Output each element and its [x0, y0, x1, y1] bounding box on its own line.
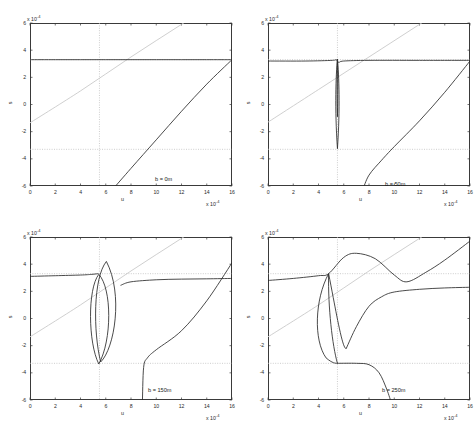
x-tick-label: 10 — [146, 403, 166, 409]
x-tick-label: 16 — [460, 189, 475, 195]
x-axis-label-p2: u — [121, 410, 124, 416]
figure-canvas: x 10-4 s u x 10-4 b = 0m 024681012141664… — [0, 0, 475, 428]
x-tick-label: 2 — [45, 403, 65, 409]
y-tick-label: -6 — [246, 397, 264, 403]
y-tick-label: 4 — [246, 261, 264, 267]
y-tick-label: 0 — [8, 315, 26, 321]
x-tick-label: 14 — [435, 189, 455, 195]
y-tick-label: -4 — [8, 155, 26, 161]
y-tick-label: 0 — [246, 315, 264, 321]
x-tick-label: 10 — [384, 189, 404, 195]
y-tick-label: -4 — [8, 369, 26, 375]
x-tick-label: 16 — [460, 403, 475, 409]
curves-p2 — [0, 214, 238, 428]
y-tick-label: -6 — [246, 183, 264, 189]
x-exponent-label-p0: x 10-4 — [206, 199, 219, 207]
y-tick-label: -6 — [8, 397, 26, 403]
y-tick-label: -2 — [246, 128, 264, 134]
x-tick-label: 12 — [172, 403, 192, 409]
y-tick-label: -2 — [246, 342, 264, 348]
y-tick-label: -4 — [246, 369, 264, 375]
x-exponent-label-p3: x 10-4 — [444, 413, 457, 421]
x-tick-label: 12 — [172, 189, 192, 195]
x-tick-label: 6 — [334, 403, 354, 409]
x-tick-label: 10 — [384, 403, 404, 409]
panel-annotation-b50: b = 50m — [385, 181, 405, 187]
y-tick-label: 2 — [8, 74, 26, 80]
x-tick-label: 8 — [359, 189, 379, 195]
x-tick-label: 0 — [258, 403, 278, 409]
curves-p0 — [0, 0, 238, 214]
y-tick-label: -2 — [8, 342, 26, 348]
x-tick-label: 6 — [96, 403, 116, 409]
x-exponent-label-p1: x 10-4 — [444, 199, 457, 207]
x-tick-label: 6 — [96, 189, 116, 195]
y-tick-label: -6 — [8, 183, 26, 189]
x-tick-label: 4 — [71, 403, 91, 409]
x-tick-label: 4 — [309, 189, 329, 195]
x-tick-label: 2 — [45, 189, 65, 195]
plot-panel-b150: x 10-4 s u x 10-4 b = 150m 0246810121416… — [0, 214, 238, 428]
x-tick-label: 0 — [20, 189, 40, 195]
y-tick-label: 0 — [8, 101, 26, 107]
x-axis-label-p0: u — [121, 196, 124, 202]
y-tick-label: 0 — [246, 101, 264, 107]
x-tick-label: 8 — [121, 189, 141, 195]
y-tick-label: 6 — [8, 234, 26, 240]
panel-annotation-b150: b = 150m — [148, 387, 171, 393]
x-tick-label: 8 — [121, 403, 141, 409]
y-tick-label: 2 — [246, 74, 264, 80]
panel-annotation-b0: b = 0m — [155, 176, 172, 182]
x-tick-label: 14 — [197, 189, 217, 195]
x-tick-label: 0 — [20, 403, 40, 409]
curves-p1 — [238, 0, 475, 214]
y-tick-label: 4 — [8, 47, 26, 53]
curves-p3 — [238, 214, 475, 428]
y-tick-label: 2 — [246, 288, 264, 294]
x-tick-label: 14 — [197, 403, 217, 409]
y-tick-label: 6 — [246, 234, 264, 240]
x-axis-label-p3: u — [359, 410, 362, 416]
y-tick-label: 6 — [246, 20, 264, 26]
plot-panel-b0: x 10-4 s u x 10-4 b = 0m 024681012141664… — [0, 0, 238, 214]
y-tick-label: 2 — [8, 288, 26, 294]
x-tick-label: 4 — [309, 403, 329, 409]
y-tick-label: -2 — [8, 128, 26, 134]
plot-panel-b250: x 10-4 s u x 10-4 b = 250m 0246810121416… — [238, 214, 475, 428]
y-tick-label: -4 — [246, 155, 264, 161]
x-axis-label-p1: u — [359, 196, 362, 202]
x-tick-label: 0 — [258, 189, 278, 195]
x-tick-label: 10 — [146, 189, 166, 195]
x-tick-label: 12 — [410, 403, 430, 409]
y-tick-label: 4 — [246, 47, 264, 53]
y-tick-label: 6 — [8, 20, 26, 26]
panel-annotation-b250: b = 250m — [382, 387, 405, 393]
y-tick-label: 4 — [8, 261, 26, 267]
x-tick-label: 2 — [283, 189, 303, 195]
x-tick-label: 4 — [71, 189, 91, 195]
plot-panel-b50: x 10-4 s u x 10-4 b = 50m 02468101214166… — [238, 0, 475, 214]
x-tick-label: 6 — [334, 189, 354, 195]
x-tick-label: 8 — [359, 403, 379, 409]
x-tick-label: 2 — [283, 403, 303, 409]
x-tick-label: 12 — [410, 189, 430, 195]
x-tick-label: 14 — [435, 403, 455, 409]
x-exponent-label-p2: x 10-4 — [206, 413, 219, 421]
